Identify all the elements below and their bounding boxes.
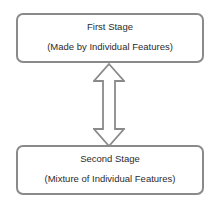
double-arrow-icon (93, 63, 125, 147)
second-stage-box: Second Stage (Mixture of Individual Feat… (16, 145, 204, 195)
first-stage-subtitle: (Made by Individual Features) (18, 41, 202, 52)
second-stage-subtitle: (Mixture of Individual Features) (18, 173, 202, 184)
second-stage-title: Second Stage (18, 153, 202, 164)
first-stage-box: First Stage (Made by Individual Features… (16, 13, 204, 63)
first-stage-title: First Stage (18, 21, 202, 32)
